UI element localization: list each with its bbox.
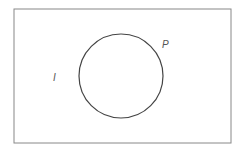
venn-diagram: I P [0,0,240,152]
set-label-p: P [162,39,169,50]
diagram-canvas: I P [0,0,240,152]
universe-label-i: I [53,72,56,83]
set-p-circle [79,34,163,118]
universe-rectangle [14,9,231,143]
